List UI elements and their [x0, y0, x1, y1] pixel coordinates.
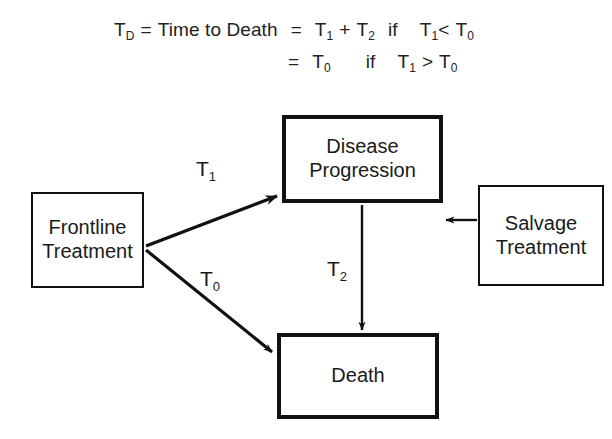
formula-term2-symbol: T: [357, 20, 369, 39]
formula-cond1-left-symbol: T: [420, 20, 432, 39]
formula-cond1-operator: <: [438, 20, 449, 39]
node-salvage-treatment[interactable]: Salvage Treatment: [478, 185, 604, 286]
edge-label-t2: T2: [327, 258, 347, 279]
formula-if-keyword-1: if: [388, 20, 398, 39]
edge-label-t2-symbol: T: [327, 257, 340, 280]
formula-line-1: TD=Time to Death=T1+T2ifT1<T0: [114, 20, 474, 39]
node-frontline-treatment-line1: Frontline: [49, 216, 127, 240]
formula-line-2: =T0ifT1>T0: [288, 52, 458, 71]
formula-equals-2: =: [291, 20, 302, 39]
edge-label-t1-symbol: T: [196, 157, 209, 180]
node-frontline-treatment-line2: Treatment: [42, 240, 132, 264]
formula-cond1-left-subscript: 1: [431, 29, 438, 43]
edge-label-t0-symbol: T: [200, 267, 213, 290]
formula-term1-subscript: 1: [327, 29, 334, 43]
formula-cond2-right-subscript: 0: [451, 61, 458, 75]
formula-cond2-right-symbol: T: [439, 52, 451, 71]
formula-td-subscript: D: [126, 29, 135, 43]
formula-plus-operator: +: [339, 20, 350, 39]
node-disease-progression-line1: Disease: [326, 135, 398, 159]
formula-cond1-right-subscript: 0: [467, 29, 474, 43]
node-salvage-treatment-line2: Treatment: [496, 236, 586, 260]
formula-cond2-operator: >: [422, 52, 433, 71]
formula-line2-value-symbol: T: [312, 52, 324, 71]
edge-label-t1: T1: [196, 158, 216, 179]
node-death[interactable]: Death: [277, 333, 439, 419]
formula-cond2-left-symbol: T: [397, 52, 409, 71]
formula-cond2-left-subscript: 1: [409, 61, 416, 75]
node-disease-progression-line2: Progression: [309, 159, 416, 183]
formula-cond1-right-symbol: T: [455, 20, 467, 39]
node-disease-progression[interactable]: Disease Progression: [282, 115, 443, 203]
formula-td-symbol: T: [114, 20, 126, 39]
formula-line2-value-subscript: 0: [324, 61, 331, 75]
edge-label-t2-subscript: 2: [340, 269, 347, 284]
node-death-line1: Death: [331, 364, 384, 388]
formula-term1-symbol: T: [315, 20, 327, 39]
node-salvage-treatment-line1: Salvage: [505, 212, 577, 236]
formula-term2-subscript: 2: [368, 29, 375, 43]
edge-label-t1-subscript: 1: [209, 169, 216, 184]
arrow-t0: [146, 250, 272, 352]
formula-line2-equals: =: [288, 52, 299, 71]
formula-equals-1: =: [141, 20, 152, 39]
edge-label-t0-subscript: 0: [213, 279, 220, 294]
edge-label-t0: T0: [200, 268, 220, 289]
formula-definition-text: Time to Death: [158, 20, 278, 39]
node-frontline-treatment[interactable]: Frontline Treatment: [31, 192, 144, 288]
diagram-canvas: TD=Time to Death=T1+T2ifT1<T0 =T0ifT1>T0…: [0, 0, 612, 439]
arrow-t1: [146, 196, 277, 246]
formula-if-keyword-2: if: [366, 52, 376, 71]
